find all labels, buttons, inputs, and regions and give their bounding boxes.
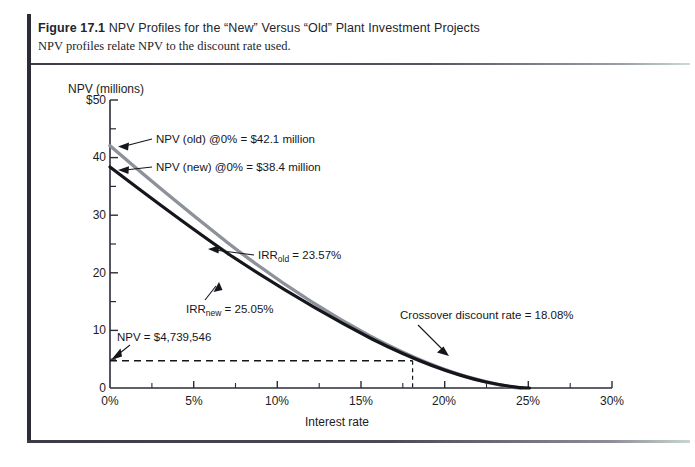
leader-crossover-rate [418, 325, 445, 352]
plot-vector-layer [0, 0, 695, 467]
leader-irr-new [205, 286, 216, 300]
annotation-arrowheads [111, 143, 449, 361]
arrowhead-crossover-npv [111, 349, 122, 361]
y-axis-major-ticks [110, 100, 118, 330]
npv-old-curve [110, 146, 521, 388]
y-axis-minor-ticks [110, 129, 116, 359]
arrowhead-irr-old [208, 246, 219, 254]
annotation-leaders [115, 139, 445, 357]
axes [110, 100, 612, 388]
arrowhead-npv-old [118, 143, 129, 151]
figure-frame: Figure 17.1 NPV Profiles for the “New” V… [0, 0, 695, 467]
arrowhead-crossover-rate [437, 347, 449, 357]
leader-irr-old [215, 250, 254, 255]
leader-npv-old [125, 139, 152, 146]
